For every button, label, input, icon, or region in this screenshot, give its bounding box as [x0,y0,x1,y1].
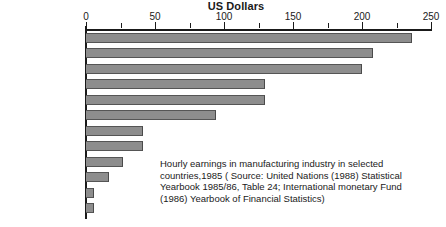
bar [86,48,373,58]
bar [86,188,94,198]
x-tick-label: 200 [354,11,371,22]
x-tick-label: 150 [285,11,302,22]
caption-line-3: Yearbook 1985/86, Table 24; Internationa… [160,181,444,193]
bar [86,33,412,43]
bar [86,126,143,136]
bar-chart-figure: US Dollars 050100150200250 United States… [0,0,446,227]
caption-line-1: Hourly earnings in manufacturing industr… [160,158,444,170]
bar [86,64,362,74]
x-tick-minor [328,23,329,28]
bar [86,79,265,89]
x-tick-minor [259,23,260,28]
x-tick-major [224,22,225,30]
x-tick-minor [190,23,191,28]
x-tick-major [86,22,87,30]
caption-line-2: countries,1985 ( Source: United Nations … [160,170,444,182]
bar [86,95,265,105]
bar [86,141,143,151]
bar [86,203,94,213]
x-tick-label: 100 [216,11,233,22]
x-tick-minor [397,23,398,28]
x-tick-label: 50 [149,11,160,22]
x-tick-label: 0 [83,11,89,22]
x-tick-major [431,22,432,30]
x-tick-major [155,22,156,30]
caption-line-4: (1986) Yearbook of Financial Statistics) [160,193,444,205]
bar [86,172,109,182]
x-tick-minor [121,23,122,28]
bar [86,110,216,120]
x-tick-major [362,22,363,30]
x-tick-major [293,22,294,30]
x-tick-label: 250 [423,11,440,22]
bar [86,157,123,167]
figure-caption: Hourly earnings in manufacturing industr… [160,158,444,204]
